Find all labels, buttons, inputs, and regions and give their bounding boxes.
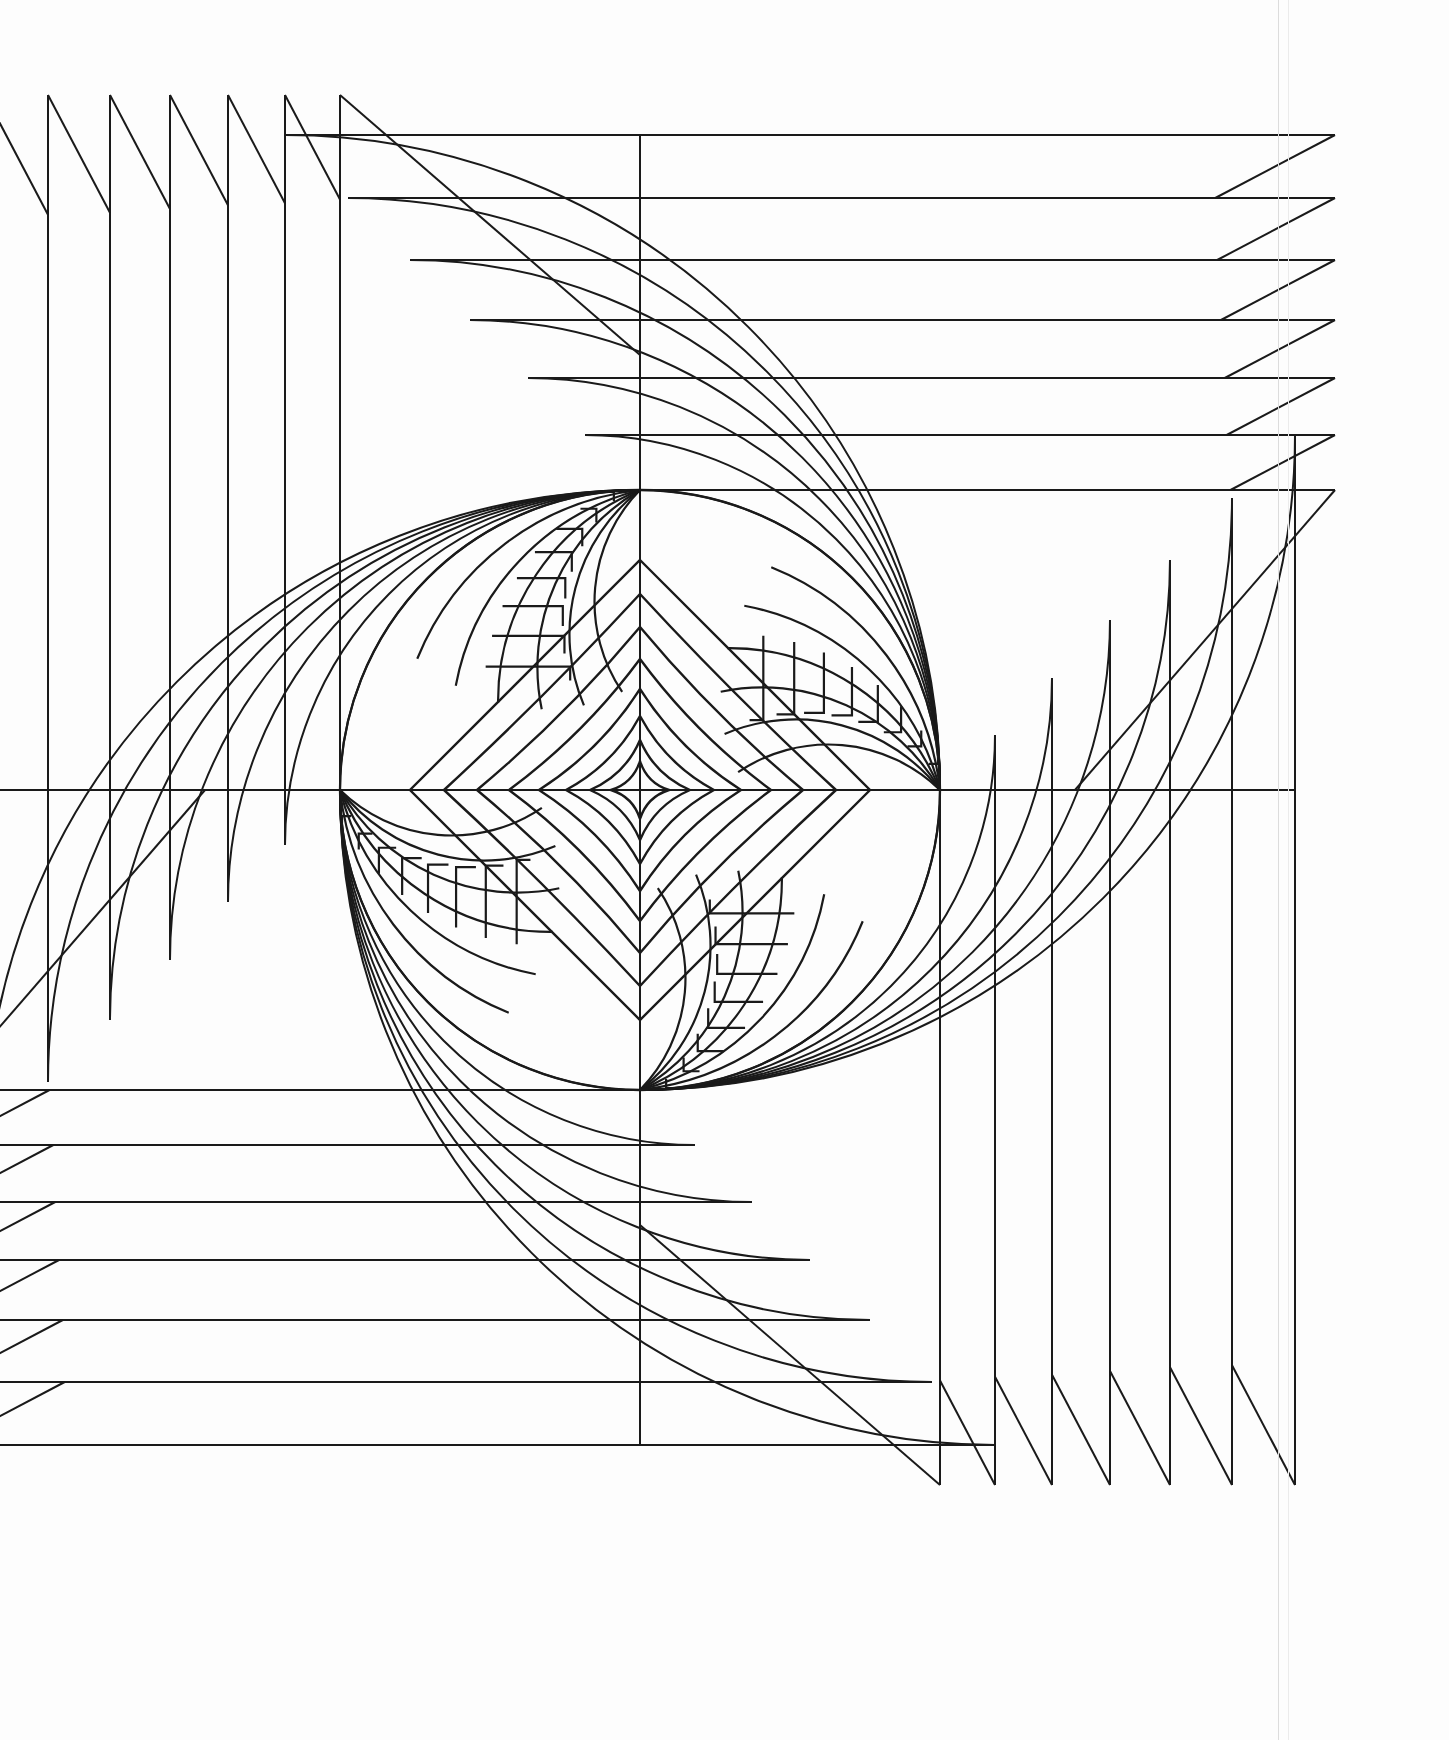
paper-right-edge-shadow — [1288, 0, 1289, 1740]
paper-right-edge-line — [1278, 0, 1279, 1740]
page-canvas — [0, 0, 1449, 1740]
geometric-pattern-artboard — [0, 0, 1449, 1740]
